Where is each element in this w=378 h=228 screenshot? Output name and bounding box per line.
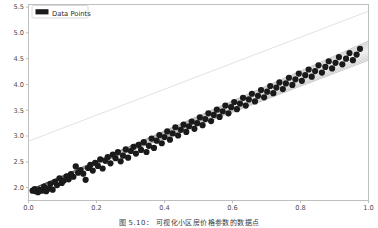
y-tick-label: 5.0 — [14, 29, 25, 37]
x-tick-label: 0.8 — [295, 204, 306, 212]
data-point — [286, 75, 292, 81]
data-point — [326, 58, 332, 64]
y-tick-label: 4.0 — [14, 81, 25, 89]
data-point — [214, 107, 220, 113]
y-tick-label: 3.0 — [14, 132, 25, 140]
data-point — [133, 150, 139, 156]
data-point — [350, 57, 356, 63]
data-point — [172, 124, 178, 130]
y-tick-label: 2.5 — [14, 158, 25, 166]
data-point — [141, 139, 147, 145]
data-point — [354, 51, 360, 57]
data-point — [228, 104, 234, 110]
x-tick-label: 0.6 — [227, 204, 238, 212]
data-point — [243, 102, 249, 108]
data-point — [332, 60, 338, 66]
data-point — [90, 167, 96, 173]
data-point — [199, 122, 205, 128]
data-point — [225, 110, 231, 116]
data-point — [208, 118, 214, 124]
data-point — [151, 145, 157, 151]
data-point — [270, 90, 276, 96]
data-point — [234, 106, 240, 112]
data-point — [306, 66, 312, 72]
data-point — [276, 79, 282, 85]
data-point — [231, 99, 237, 105]
data-point — [343, 56, 349, 62]
data-point — [170, 130, 176, 136]
data-point — [143, 149, 149, 155]
data-point — [299, 78, 305, 84]
data-point — [249, 91, 255, 97]
data-point — [107, 160, 113, 166]
data-point — [125, 155, 131, 161]
data-point — [175, 132, 181, 138]
data-point — [315, 62, 321, 68]
data-point — [161, 134, 167, 140]
data-point — [205, 110, 211, 116]
data-point — [246, 96, 252, 102]
y-tick-label: 4.5 — [14, 55, 25, 63]
data-point — [138, 147, 144, 153]
data-point — [100, 165, 106, 171]
data-point — [180, 122, 186, 128]
data-point — [309, 74, 315, 80]
plot-area — [29, 11, 369, 195]
data-point — [261, 94, 267, 100]
legend-swatch — [36, 9, 49, 14]
data-point — [357, 46, 363, 52]
data-point — [194, 120, 200, 126]
data-point — [296, 71, 302, 77]
data-point — [292, 76, 298, 82]
data-point — [322, 64, 328, 70]
data-point — [258, 87, 264, 93]
data-point — [264, 89, 270, 95]
data-point — [255, 93, 261, 99]
x-tick-label: 1.0 — [363, 204, 374, 212]
x-tick-label: 0.4 — [159, 204, 170, 212]
data-point — [319, 69, 325, 75]
figure-container: 0.00.20.40.60.81.02.02.53.03.54.04.55.05… — [0, 0, 378, 228]
data-point — [50, 187, 56, 193]
data-point — [329, 65, 335, 71]
scatter-plot: 0.00.20.40.60.81.02.02.53.03.54.04.55.05… — [0, 0, 378, 228]
data-point — [115, 149, 121, 155]
x-tick-label: 0.2 — [91, 204, 102, 212]
data-point — [237, 100, 243, 106]
data-point — [252, 98, 258, 104]
y-tick-label: 3.5 — [14, 107, 25, 115]
data-point — [267, 83, 273, 89]
data-point — [280, 86, 286, 92]
data-point — [336, 54, 342, 60]
data-point — [191, 126, 197, 132]
data-point — [167, 137, 173, 143]
x-tick-label: 0.0 — [23, 204, 34, 212]
data-point — [197, 114, 203, 120]
y-tick-label: 2.0 — [14, 184, 25, 192]
data-point — [283, 80, 289, 86]
data-point — [240, 95, 246, 101]
data-point — [220, 108, 226, 114]
data-point — [222, 102, 228, 108]
data-point — [70, 174, 76, 180]
data-point — [312, 68, 318, 74]
legend-label: Data Points — [52, 10, 91, 18]
data-point — [189, 118, 195, 124]
data-point — [159, 140, 165, 146]
data-point — [339, 61, 345, 67]
data-point — [211, 112, 217, 118]
data-point — [273, 84, 279, 90]
y-tick-label: 5.5 — [14, 3, 25, 11]
data-point — [302, 72, 308, 78]
data-point — [346, 50, 352, 56]
data-point — [216, 114, 222, 120]
data-point — [183, 129, 189, 135]
figure-caption: 图 5.10： 可视化小区房价格参数的数据点 — [0, 217, 378, 227]
data-point — [164, 128, 170, 134]
data-point — [80, 171, 86, 177]
data-point — [83, 177, 89, 183]
data-point — [118, 158, 124, 164]
legend[interactable]: Data Points — [32, 6, 91, 19]
data-point — [289, 82, 295, 88]
data-point — [202, 116, 208, 122]
